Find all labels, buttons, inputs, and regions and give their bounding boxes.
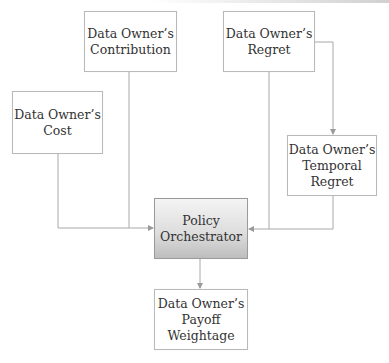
node-policy-orchestrator: Policy Orchestrator (154, 198, 248, 259)
node-label: Data Owner’s Payoff Weightage (158, 296, 245, 344)
edge-cost-policy (58, 154, 153, 228)
diagram-canvas: Data Owner’s Contribution Data Owner’s R… (0, 0, 389, 363)
node-label: Data Owner’s Cost (14, 107, 101, 139)
node-temporal-regret: Data Owner’s Temporal Regret (287, 135, 377, 196)
node-label: Data Owner’s Temporal Regret (289, 142, 376, 190)
node-payoff-weightage: Data Owner’s Payoff Weightage (154, 289, 248, 350)
edge-temporal-policy (249, 196, 333, 229)
node-label: Data Owner’s Contribution (87, 26, 174, 58)
node-contribution: Data Owner’s Contribution (84, 11, 177, 72)
node-regret: Data Owner’s Regret (223, 11, 315, 72)
node-label: Policy Orchestrator (160, 213, 242, 245)
node-cost: Data Owner’s Cost (12, 91, 103, 154)
edge-regret-temporal (315, 42, 333, 134)
node-label: Data Owner’s Regret (226, 26, 313, 58)
